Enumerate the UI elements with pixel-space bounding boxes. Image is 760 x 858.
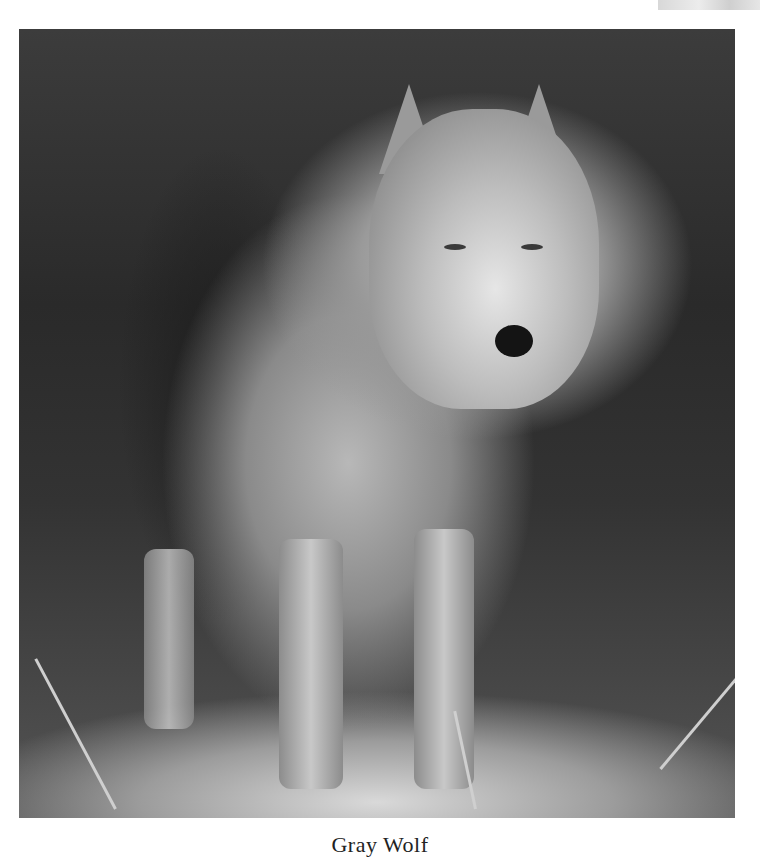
- wolf-left-eye: [444, 244, 466, 250]
- wolf-head: [369, 109, 599, 409]
- wolf-photo: [19, 29, 735, 818]
- grass-blade: [659, 676, 735, 770]
- corner-thumbnail-image: [658, 0, 760, 10]
- wolf-right-eye: [521, 244, 543, 250]
- photo-caption: Gray Wolf: [0, 832, 760, 858]
- wolf-front-left-leg: [279, 539, 343, 789]
- wolf-nose: [495, 325, 533, 357]
- grass-blade: [34, 658, 116, 810]
- wolf-hind-leg: [144, 549, 194, 729]
- wolf-front-right-leg: [414, 529, 474, 789]
